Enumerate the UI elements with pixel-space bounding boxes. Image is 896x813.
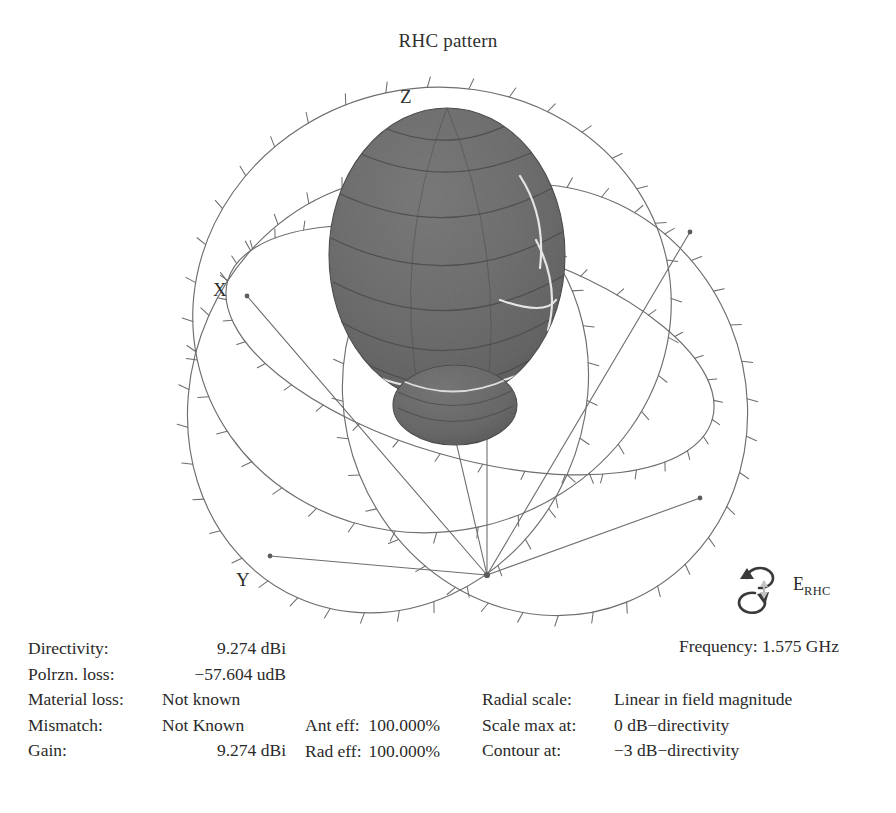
graticule-tick (665, 228, 674, 234)
graticule-tick (746, 436, 756, 441)
graticule-tick (386, 82, 387, 93)
graticule-tick (478, 464, 483, 472)
polarization-label: ERHC (793, 574, 831, 599)
efficiency-body: Ant eff: 100.000% Rad eff: 100.000% (305, 713, 440, 764)
graticule-tick (637, 186, 648, 189)
graticule-tick (685, 564, 690, 574)
graticule-tick (618, 444, 624, 453)
graticule-tick (334, 359, 344, 364)
graticule-tick (232, 256, 237, 264)
table-row: Ant eff: 100.000% (305, 713, 440, 739)
scale-value: 0 dB−directivity (614, 713, 792, 739)
graticule-tick (691, 256, 701, 260)
graticule-tick (324, 609, 330, 618)
graticule-tick (740, 473, 749, 479)
graticule-tick (642, 411, 649, 419)
graticule-tick (667, 260, 678, 261)
graticule-tick (556, 497, 558, 508)
graticule-tick (627, 602, 628, 613)
graticule-tick (257, 364, 265, 368)
table-row: Radial scale: Linear in field magnitude (482, 687, 792, 713)
graticule-tick (580, 438, 589, 444)
antenna-stats-table: Directivity: 9.274 dBi Polrzn. loss: −57… (28, 636, 286, 764)
scale-settings-body: Radial scale: Linear in field magnitude … (482, 687, 792, 764)
graticule-tick (730, 324, 741, 325)
table-row: Mismatch: Not Known (28, 713, 286, 739)
graticule-tick (250, 241, 252, 250)
graticule-tick (635, 206, 643, 213)
graticule-tick (602, 189, 609, 198)
graticule-tick (675, 332, 683, 336)
graticule-tick (582, 126, 591, 132)
graticule-tick (713, 289, 724, 291)
graticule-tick (186, 277, 196, 282)
graticule-tick (549, 509, 556, 518)
graticule-tick (349, 475, 360, 476)
stat-value: Not known (162, 687, 286, 713)
graticule-tick (427, 77, 430, 88)
stat-label: Polrzn. loss: (28, 662, 162, 688)
graticule-tick (366, 509, 377, 511)
polarization-subscript: RHC (804, 584, 831, 598)
graticule-tick (182, 318, 192, 321)
graticule-tick (304, 221, 305, 230)
graticule-tick (337, 438, 348, 439)
graticule-tick (658, 586, 661, 597)
graticule-tick (583, 326, 594, 327)
graticule-tick (435, 454, 440, 461)
scale-value: −3 dB−directivity (614, 738, 792, 764)
graticule-tick (572, 290, 583, 291)
efficiency-table: Ant eff: 100.000% Rad eff: 100.000% (305, 713, 440, 764)
graticule-tick (284, 385, 291, 390)
main-lobe-surface (329, 108, 565, 405)
graticule-tick (635, 470, 636, 479)
polarization-indicator: ERHC (735, 562, 885, 620)
graticule-tick (469, 79, 474, 89)
graticule-tick (393, 440, 399, 447)
graticule-tick (223, 320, 232, 321)
table-row: Rad eff: 100.000% (305, 739, 440, 765)
stat-label: Gain: (28, 738, 162, 764)
table-row: Contour at: −3 dB−directivity (482, 738, 792, 764)
graticule-tick (361, 613, 365, 623)
stat-value: 9.274 dBi (162, 636, 286, 662)
graticule-tick (353, 424, 359, 431)
graticule-tick (307, 193, 309, 204)
right-hand-circular-polarization-icon (735, 562, 793, 620)
graticule-tick (567, 178, 572, 188)
graticule-tick (197, 238, 206, 245)
graticule-tick (649, 310, 656, 315)
graticule-tick (481, 603, 488, 612)
table-row: Material loss: Not known (28, 687, 286, 713)
scale-settings-table: Radial scale: Linear in field magnitude … (482, 687, 792, 764)
scale-value: Linear in field magnitude (614, 687, 792, 713)
graticule-tick (727, 507, 735, 515)
graticule-tick (714, 400, 723, 402)
graticule-tick (186, 359, 197, 360)
graticule-tick (525, 539, 530, 549)
graticule-tick (182, 463, 193, 464)
stat-value: −57.604 udB (162, 662, 286, 688)
axis-label-y: Y (236, 569, 250, 591)
axis-label-x: X (213, 279, 227, 301)
graticule-tick (259, 581, 268, 587)
graticule-tick (467, 586, 469, 597)
graticule-tick (548, 104, 556, 112)
rhc-pattern-figure: RHC pattern (0, 0, 896, 813)
graticule-tick (290, 598, 297, 606)
graticule-tick (703, 436, 708, 444)
graticule-tick (708, 538, 714, 547)
polarization-symbol: E (793, 574, 804, 594)
scale-label: Contour at: (482, 738, 614, 764)
graticule-tick (612, 154, 622, 159)
back-lobe-surface (393, 365, 517, 445)
graticule-tick (397, 611, 399, 622)
graticule-tick (198, 397, 209, 398)
graticule-tick (232, 558, 242, 563)
efficiency-value: 100.000% (369, 739, 440, 765)
graticule-tick (306, 112, 308, 123)
graticule-tick (592, 612, 593, 623)
graticule-tick (309, 508, 317, 516)
scale-label: Scale max at: (482, 713, 614, 739)
graticule-tick (434, 533, 437, 544)
